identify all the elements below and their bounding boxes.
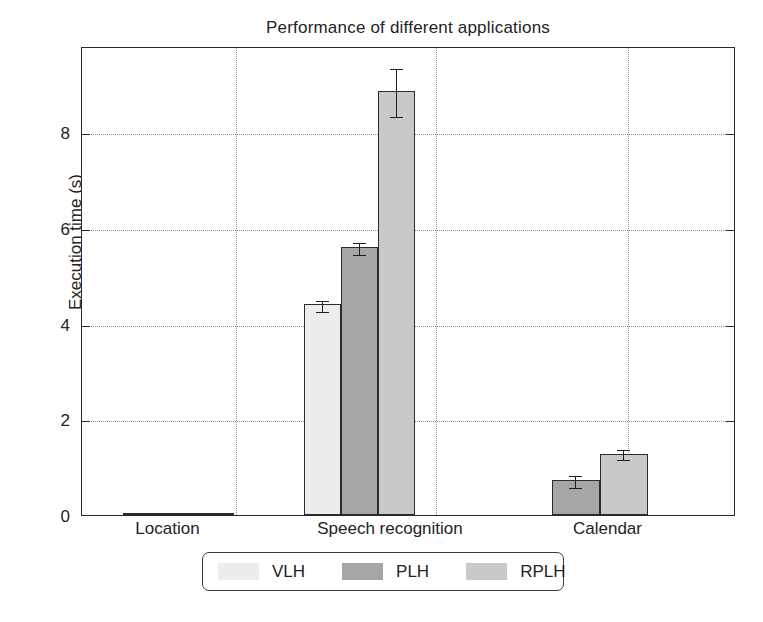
y-tick-label-6: 6: [24, 220, 70, 240]
y-tick-label-0: 0: [24, 507, 70, 527]
bar-speech-rplh[interactable]: [378, 91, 415, 515]
errorbar-cap-speech-vlh-top: [316, 301, 329, 302]
errorbar-cap-calendar-rplh-top: [617, 450, 630, 451]
bar-calendar-rplh[interactable]: [600, 454, 648, 515]
errorbar-cap-speech-rplh-top: [390, 69, 403, 70]
y-tick-label-4: 4: [24, 316, 70, 336]
y-tick-mark-8-left: [82, 134, 90, 135]
legend: VLH PLH RPLH: [202, 552, 564, 591]
errorbar-calendar-plh: [575, 476, 576, 488]
y-tick-mark-8-right: [726, 134, 734, 135]
legend-item-rplh[interactable]: RPLH: [466, 562, 565, 582]
legend-swatch-plh-icon: [342, 563, 383, 580]
group-separator-3: [628, 48, 629, 515]
group-separator-1: [236, 48, 237, 515]
legend-label-rplh: RPLH: [520, 562, 565, 582]
errorbar-speech-rplh: [396, 69, 397, 117]
y-tick-mark-4-left: [82, 326, 90, 327]
legend-swatch-vlh-icon: [218, 563, 259, 580]
y-tick-mark-2-left: [82, 421, 90, 422]
errorbar-speech-vlh: [322, 301, 323, 312]
errorbar-cap-speech-rplh-bottom: [390, 117, 403, 118]
bar-location-vlh[interactable]: [123, 513, 160, 515]
y-tick-label-8: 8: [24, 124, 70, 144]
x-tick-label-calendar: Calendar: [540, 519, 675, 539]
legend-label-vlh: VLH: [272, 562, 305, 582]
bar-speech-plh[interactable]: [341, 247, 378, 515]
errorbar-calendar-rplh: [623, 450, 624, 460]
errorbar-cap-speech-plh-top: [353, 243, 366, 244]
y-tick-mark-6-right: [726, 230, 734, 231]
y-tick-mark-4-right: [726, 326, 734, 327]
errorbar-cap-calendar-plh-top: [569, 476, 582, 477]
group-separator-2: [436, 48, 437, 515]
x-tick-label-speech: Speech recognition: [300, 519, 480, 539]
errorbar-cap-speech-plh-bottom: [353, 255, 366, 256]
y-tick-label-2: 2: [24, 411, 70, 431]
chart-title: Performance of different applications: [81, 18, 735, 38]
legend-swatch-rplh-icon: [466, 563, 507, 580]
bar-location-plh[interactable]: [160, 513, 197, 515]
errorbar-speech-plh: [359, 243, 360, 255]
plot-area: [81, 47, 735, 516]
errorbar-cap-speech-vlh-bottom: [316, 312, 329, 313]
x-tick-label-location: Location: [100, 519, 235, 539]
bar-location-rplh[interactable]: [197, 513, 234, 515]
legend-item-plh[interactable]: PLH: [342, 562, 429, 582]
y-tick-mark-2-right: [726, 421, 734, 422]
bar-calendar-plh[interactable]: [552, 480, 600, 515]
legend-item-vlh[interactable]: VLH: [218, 562, 305, 582]
errorbar-cap-calendar-plh-bottom: [569, 488, 582, 489]
errorbar-cap-calendar-rplh-bottom: [617, 460, 630, 461]
bar-speech-vlh[interactable]: [304, 304, 341, 515]
legend-label-plh: PLH: [396, 562, 429, 582]
y-tick-mark-6-left: [82, 230, 90, 231]
figure-canvas: Performance of different applications Ex…: [0, 0, 763, 622]
